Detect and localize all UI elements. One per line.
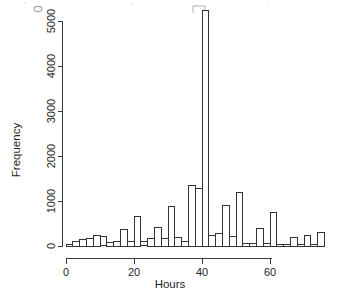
histogram-bar [73,241,80,246]
histogram-bar [229,236,236,246]
y-tick-label: 1000 [45,189,57,213]
histogram-bar [290,238,297,246]
histogram-bar [120,229,127,246]
histogram-bar [154,227,161,246]
histogram-bar [216,234,223,246]
histogram-bar [270,212,277,246]
histogram-bar [80,239,87,246]
x-tick-label: 40 [196,266,208,278]
x-tick-label: 60 [264,266,276,278]
histogram-bar [304,235,311,246]
histogram-bar [195,188,202,246]
paper-speck [24,2,26,4]
y-tick-label: 2000 [45,144,57,168]
hours-axis: 0204060 Hours [63,259,276,291]
histogram-svg: 010002000300040005000 Frequency 0204060 … [0,0,344,300]
histogram-bar [188,186,195,246]
histogram-bar [148,238,155,246]
histogram-bar [311,244,318,246]
histogram-bar [86,238,93,246]
histogram-figure: 010002000300040005000 Frequency 0204060 … [0,0,344,300]
histogram-bar [284,245,291,246]
histogram-bar [175,237,182,246]
x-tick-label: 0 [63,266,69,278]
histogram-bar [107,243,114,246]
x-axis-ticks: 0204060 [63,259,276,279]
histogram-bars [66,11,324,246]
histogram-bar [127,241,134,246]
histogram-bar [100,236,107,246]
histogram-bar [202,11,209,246]
y-tick-label: 4000 [45,54,57,78]
histogram-bar [93,236,100,246]
histogram-bar [236,192,243,246]
histogram-bar [250,244,257,246]
histogram-bar [222,206,229,246]
histogram-bar [318,233,325,246]
scan-artifacts [24,2,269,13]
histogram-bar [243,243,250,246]
y-axis-ticks: 010002000300040005000 [45,9,63,249]
histogram-bar [66,244,73,246]
histogram-bar [182,241,189,246]
histogram-bar [114,242,121,247]
histogram-bar [263,244,270,246]
paper-speck [267,4,269,6]
histogram-bar [161,238,168,246]
histogram-bar [134,217,141,246]
small-oval-artifact-icon [34,6,42,11]
x-axis-title: Hours [155,278,186,290]
histogram-bar [168,206,175,246]
histogram-bar [297,245,304,246]
paper-speck [131,3,133,5]
histogram-bar [256,228,263,246]
y-tick-label: 5000 [45,9,57,33]
y-tick-label: 3000 [45,99,57,123]
histogram-bar [141,242,148,246]
histogram-bar [209,236,216,246]
x-tick-label: 20 [128,266,140,278]
y-axis-title: Frequency [10,123,22,178]
histogram-bar [277,245,284,246]
frequency-axis: 010002000300040005000 Frequency [10,9,63,249]
y-tick-label: 0 [45,243,57,249]
